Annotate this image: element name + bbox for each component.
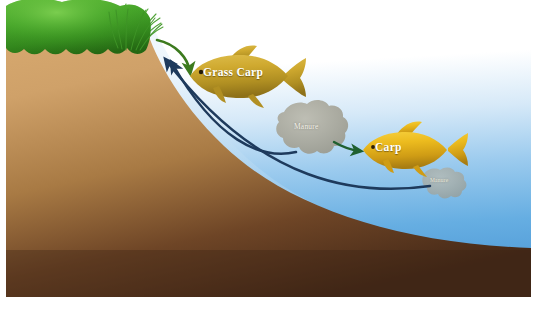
soil-shadow-band [6, 250, 531, 297]
grass-highlight [6, 0, 151, 54]
illustration-canvas: Grass Carp Carp Manure Manure [0, 0, 535, 314]
vegetation-layer [6, 0, 163, 54]
scene-graphic [0, 0, 535, 314]
